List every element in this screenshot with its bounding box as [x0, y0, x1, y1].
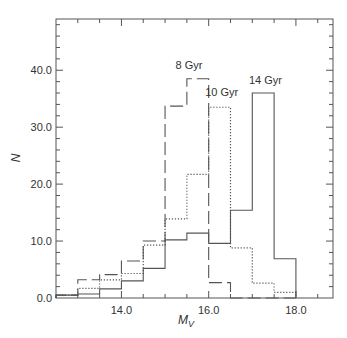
series-8-gyr: [56, 79, 296, 298]
y-axis-title: N: [9, 153, 23, 162]
y-tick-label: 40.0: [31, 64, 52, 76]
series-label-8-gyr: 8 Gyr: [176, 59, 203, 71]
histogram-chart: 14.016.018.00.010.020.030.040.0 8 Gyr10 …: [0, 0, 347, 338]
series-14-gyr: [56, 93, 296, 298]
x-tick-label: 16.0: [198, 304, 219, 316]
x-tick-label: 14.0: [111, 304, 132, 316]
x-axis-title-main: M: [178, 313, 188, 327]
series-labels: 8 Gyr10 Gyr14 Gyr: [176, 59, 283, 98]
y-tick-label: 0.0: [37, 292, 52, 304]
series-label-14-gyr: 14 Gyr: [249, 74, 282, 86]
x-axis-title: MV: [178, 313, 195, 329]
x-axis-title-subscript: V: [188, 319, 195, 329]
y-tick-label: 10.0: [31, 235, 52, 247]
histogram-series: [56, 79, 296, 298]
series-label-10-gyr: 10 Gyr: [205, 86, 238, 98]
axis-tick-labels: 14.016.018.00.010.020.030.040.0: [31, 64, 307, 316]
series-10-gyr: [56, 107, 296, 298]
y-tick-label: 20.0: [31, 178, 52, 190]
y-tick-label: 30.0: [31, 121, 52, 133]
x-tick-label: 18.0: [285, 304, 306, 316]
